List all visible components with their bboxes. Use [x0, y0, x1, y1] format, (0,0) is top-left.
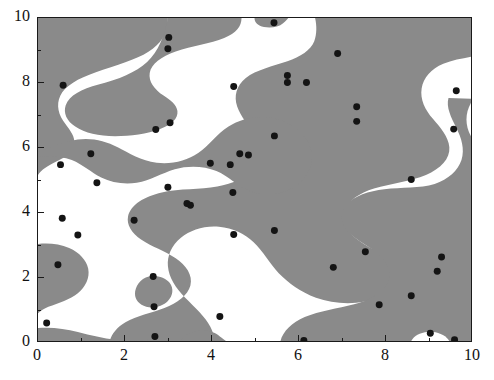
data-point: [303, 79, 310, 86]
x-tick-label: 10: [452, 346, 492, 364]
plot-area: [37, 17, 472, 342]
y-major-tick: [37, 212, 44, 213]
x-tick-label: 8: [365, 346, 405, 364]
data-point: [227, 161, 234, 168]
data-point: [152, 126, 159, 133]
data-point: [434, 268, 441, 275]
data-point: [151, 303, 158, 310]
data-point: [87, 150, 94, 157]
data-point: [451, 336, 458, 341]
data-point: [353, 118, 360, 125]
data-point: [54, 261, 61, 268]
x-tick-label: 2: [104, 346, 144, 364]
y-major-tick: [37, 277, 44, 278]
data-point: [164, 45, 171, 52]
y-minor-tick: [37, 115, 41, 116]
y-tick-label: 6: [0, 138, 30, 154]
scatter-field-figure: 0246810 0246810: [0, 0, 494, 380]
x-minor-tick: [255, 338, 256, 342]
data-point: [43, 319, 50, 326]
data-point: [150, 273, 157, 280]
y-major-tick: [37, 82, 44, 83]
y-minor-tick: [37, 50, 41, 51]
data-point: [362, 248, 369, 255]
x-tick-label: 4: [191, 346, 231, 364]
data-point: [216, 313, 223, 320]
data-point: [236, 150, 243, 157]
x-minor-tick: [429, 338, 430, 342]
data-point: [230, 83, 237, 90]
data-point: [229, 189, 236, 196]
data-point: [270, 19, 277, 26]
data-point: [57, 161, 64, 168]
data-point: [187, 202, 194, 209]
data-point: [271, 132, 278, 139]
data-point: [408, 292, 415, 299]
y-minor-tick: [37, 310, 41, 311]
data-point: [450, 126, 457, 133]
data-point: [245, 151, 252, 158]
data-point: [131, 217, 138, 224]
data-point: [60, 82, 67, 89]
data-point: [300, 337, 307, 341]
x-minor-tick: [342, 338, 343, 342]
data-point: [59, 215, 66, 222]
y-minor-tick: [37, 180, 41, 181]
data-point: [334, 50, 341, 57]
data-point: [207, 160, 214, 167]
x-minor-tick: [168, 338, 169, 342]
x-major-tick: [298, 335, 299, 342]
data-point: [165, 34, 172, 41]
data-point: [167, 119, 174, 126]
data-point: [151, 333, 158, 340]
y-tick-label: 0: [0, 333, 30, 349]
y-tick-label: 8: [0, 73, 30, 89]
data-point: [453, 87, 460, 94]
y-tick-label: 10: [0, 8, 30, 24]
data-point: [408, 176, 415, 183]
data-point: [271, 227, 278, 234]
data-point: [438, 254, 445, 261]
x-major-tick: [124, 335, 125, 342]
data-point: [427, 330, 434, 337]
data-point: [284, 72, 291, 79]
x-major-tick: [211, 335, 212, 342]
data-point: [330, 264, 337, 271]
data-point: [284, 79, 291, 86]
scatter-points-layer: [38, 18, 471, 341]
data-point: [74, 232, 81, 239]
data-point: [353, 103, 360, 110]
y-major-tick: [37, 147, 44, 148]
data-point: [93, 179, 100, 186]
x-major-tick: [385, 335, 386, 342]
data-point: [164, 184, 171, 191]
y-tick-label: 4: [0, 203, 30, 219]
y-minor-tick: [37, 245, 41, 246]
data-point: [230, 231, 237, 238]
x-minor-tick: [81, 338, 82, 342]
data-point: [376, 301, 383, 308]
x-tick-label: 6: [278, 346, 318, 364]
y-tick-label: 2: [0, 268, 30, 284]
